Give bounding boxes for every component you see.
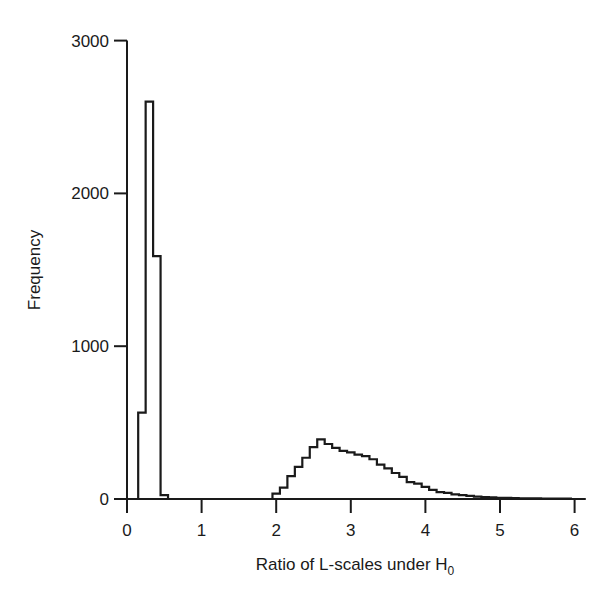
x-tick-label: 6 [570,521,579,540]
histogram-outline [138,102,571,499]
y-tick-label: 3000 [71,32,109,51]
x-axis-label: Ratio of L-scales under H0 [256,555,455,578]
x-axis: 0123456 [114,499,586,540]
y-axis: 0100020003000 [71,32,127,513]
x-tick-label: 2 [271,521,280,540]
x-tick-label: 3 [346,521,355,540]
x-tick-label: 5 [495,521,504,540]
x-tick-label: 0 [122,521,131,540]
x-axis-label-subscript: 0 [448,564,455,578]
y-tick-label: 0 [100,490,109,509]
x-tick-label: 4 [421,521,430,540]
y-tick-label: 2000 [71,184,109,203]
histogram-chart: 0100020003000 0123456 Frequency Ratio of… [0,0,615,603]
y-tick-label: 1000 [71,337,109,356]
x-axis-label-main: Ratio of L-scales under H [256,555,448,574]
y-axis-label: Frequency [25,229,44,310]
x-tick-label: 1 [197,521,206,540]
